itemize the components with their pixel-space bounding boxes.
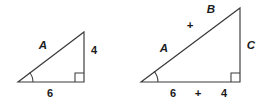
large-triangle-angle-arc bbox=[154, 71, 158, 82]
small-triangle-angle-arc bbox=[30, 73, 33, 83]
small-triangle-hypotenuse-label: A bbox=[38, 39, 47, 51]
geometry-canvas: A 4 6 A + B C 6 + 4 bbox=[0, 0, 268, 107]
large-triangle-base-first-label: 6 bbox=[170, 87, 176, 99]
large-triangle-hypotenuse-upper-label: B bbox=[207, 3, 215, 15]
geometry-diagram: A 4 6 A + B C 6 + 4 bbox=[0, 0, 268, 107]
large-triangle-right-angle-mark bbox=[231, 73, 240, 82]
small-triangle-base-label: 6 bbox=[47, 87, 53, 99]
large-triangle-base-second-label: 4 bbox=[221, 87, 228, 99]
large-triangle-base-plus-label: + bbox=[195, 87, 202, 99]
large-right-triangle: A + B C 6 + 4 bbox=[141, 3, 256, 99]
small-triangle-vertical-leg-label: 4 bbox=[91, 44, 98, 56]
small-right-triangle: A 4 6 bbox=[18, 32, 98, 99]
large-triangle-hypotenuse-plus-label: + bbox=[187, 19, 194, 31]
small-triangle-outline bbox=[18, 32, 84, 82]
small-triangle-right-angle-mark bbox=[75, 73, 84, 82]
large-triangle-vertical-leg-label: C bbox=[247, 39, 256, 51]
large-triangle-hypotenuse-lower-label: A bbox=[159, 42, 168, 54]
